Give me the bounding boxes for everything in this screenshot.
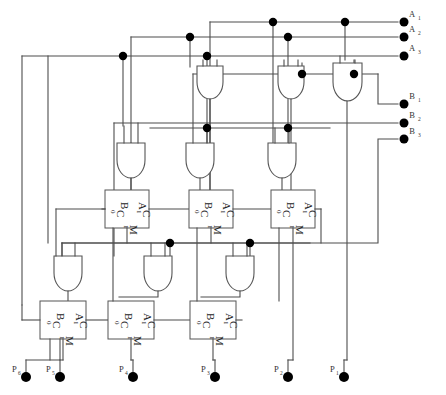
terminal-p6[interactable] [21,372,31,382]
pin-cout-sub: 1 [72,321,80,325]
bus-mid-74-b1 [378,74,398,104]
pin-sum-sub: 1 [208,336,216,340]
and-gate-top-3 [333,56,362,360]
label-p2-sub: 2 [280,370,283,376]
adder-l1 [22,301,108,360]
terminal-p5[interactable] [55,372,65,382]
label-p4: P [119,364,124,374]
pin-a-label: A [224,313,236,321]
pin-sum-sub: 1 [58,336,66,340]
terminal-p2[interactable] [283,372,293,382]
pin-sum-sub: 1 [122,225,130,229]
label-p1: P [330,364,335,374]
pin-cin-sub: 0 [113,321,121,325]
pin-sum-sub: 1 [126,336,134,340]
and-gate-bot-2 [119,243,172,297]
pin-cout-sub: 1 [219,210,227,214]
label-b2-sub: 2 [418,116,421,122]
pin-a-label: A [303,202,315,210]
pin-cout-sub: 1 [301,210,309,214]
terminal-a3[interactable] [400,52,409,61]
label-p5-sub: 5 [52,370,55,376]
terminal-b3[interactable] [400,135,409,144]
terminal-b2[interactable] [400,119,409,128]
pin-sum-sub: 1 [288,225,296,229]
label-a1: A [409,9,416,19]
pin-cin-sub: 0 [275,210,283,214]
label-p5: P [46,364,51,374]
label-p6: P [12,364,17,374]
label-b3: B [409,126,415,136]
label-p1-sub: 1 [336,370,339,376]
pin-b-label: B [123,313,135,320]
label-a1-sub: 1 [418,15,421,21]
terminal-p3[interactable] [210,372,220,382]
junction-dots [119,18,358,247]
pin-cin-sub: 0 [195,321,203,325]
input-terminals-a[interactable] [400,18,409,61]
pin-cin-sub: 0 [109,210,117,214]
terminal-a1[interactable] [400,18,409,27]
pin-b-label: B [205,313,217,320]
adder-l3 [190,301,242,360]
label-b1: B [409,91,415,101]
label-p3: P [201,364,206,374]
pin-b-label: B [203,202,215,209]
label-b3-sub: 3 [418,132,421,138]
and-gate-mid-3 [268,128,296,190]
input-terminals-b[interactable] [400,100,409,144]
pin-cin-sub: 0 [45,321,53,325]
pin-cin-sub: 0 [193,210,201,214]
terminal-p4[interactable] [128,372,138,382]
pin-b-label: B [285,202,297,209]
label-a3-sub: 3 [418,49,421,55]
terminal-b1[interactable] [400,100,409,109]
pin-a-label: A [142,313,154,321]
label-a2-sub: 2 [418,30,421,36]
pin-cout-sub: 1 [135,210,143,214]
pin-b-label: B [119,202,131,209]
label-a2: A [409,24,416,34]
multiplier-schematic: B A C 0 C 1 M 1 B A C 0 C 1 M 1 B A C 0 … [0,0,446,395]
and-gate-bot-3 [201,243,254,297]
input-labels: A 1 A 2 A 3 B 1 B 2 B 3 [409,9,421,138]
label-p4-sub: 4 [125,370,128,376]
circuit-diagram-canvas: B A C 0 C 1 M 1 B A C 0 C 1 M 1 B A C 0 … [0,0,446,395]
pin-a-label: A [221,202,233,210]
terminal-p1[interactable] [339,372,349,382]
adder-l2 [108,301,190,360]
label-p6-sub: 6 [18,370,21,376]
label-a3: A [409,43,416,53]
pin-b-label: B [55,313,67,320]
pin-cout-sub: 1 [140,321,148,325]
terminal-a2[interactable] [400,33,409,42]
pin-a-label: A [74,313,86,321]
label-p2: P [274,364,279,374]
label-b2: B [409,110,415,120]
pin-a-label: A [137,202,149,210]
pin-cout-sub: 1 [222,321,230,325]
label-b1-sub: 1 [418,97,421,103]
label-p3-sub: 3 [207,370,210,376]
pin-sum-sub: 1 [206,225,214,229]
and-gate-bot-1 [54,243,82,301]
